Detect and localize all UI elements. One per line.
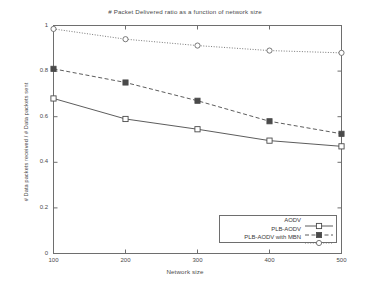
legend-sample-0 — [304, 216, 334, 224]
x-tick-0: 100 — [39, 257, 69, 263]
y-tick-1: 0.2 — [18, 204, 48, 210]
x-tick-1: 200 — [111, 257, 141, 263]
legend-label-1: PLB-AODV — [271, 226, 301, 232]
legend-item-1: PLB-AODV — [220, 225, 336, 234]
legend-sample-2 — [304, 233, 334, 241]
legend: AODV PLB-AODV PLB-AODV with MBN — [219, 215, 337, 243]
x-tick-4: 500 — [327, 257, 357, 263]
y-tick-4: 0.8 — [18, 67, 48, 73]
y-tick-3: 0.6 — [18, 113, 48, 119]
x-tick-2: 300 — [183, 257, 213, 263]
legend-item-2: PLB-AODV with MBN — [220, 233, 336, 242]
y-tick-0: 0 — [18, 250, 48, 256]
x-tick-3: 400 — [255, 257, 285, 263]
legend-sample-1 — [304, 225, 334, 233]
series-line-0 — [54, 98, 342, 146]
legend-label-0: AODV — [284, 217, 301, 223]
y-tick-2: 0.4 — [18, 158, 48, 164]
y-tick-5: 1 — [18, 22, 48, 28]
series-line-2 — [54, 29, 342, 53]
legend-label-2: PLB-AODV with MBN — [244, 234, 301, 240]
legend-item-0: AODV — [220, 216, 336, 225]
chart-figure: # Packet Delivered ratio as a function o… — [0, 0, 370, 281]
